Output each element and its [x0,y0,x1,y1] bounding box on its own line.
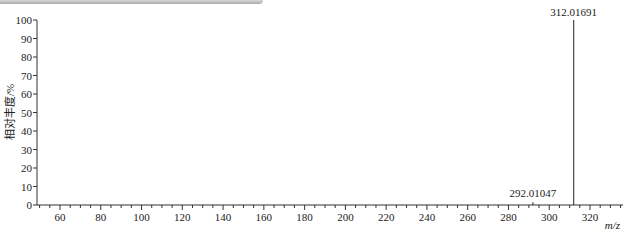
x-tick-label: 120 [174,211,191,223]
x-tick-label: 220 [378,211,395,223]
y-tick-label: 30 [21,144,33,156]
peak-label: 292.01047 [510,187,557,199]
mass-spectrum-chart: 0102030405060708090100 60801001201401601… [0,0,629,234]
x-tick-label: 140 [215,211,232,223]
x-axis-title: m/z [605,219,621,231]
x-tick-label: 160 [256,211,273,223]
x-tick-label: 260 [459,211,476,223]
x-axis: 6080100120140160180200220240260280300320 [37,205,623,223]
x-tick-label: 80 [95,211,107,223]
x-tick-label: 200 [337,211,354,223]
x-tick-label: 300 [541,211,558,223]
x-tick-label: 100 [133,211,150,223]
peak-label: 312.01691 [550,6,597,18]
y-tick-label: 90 [21,33,33,45]
y-tick-label: 80 [21,51,33,63]
x-tick-label: 280 [500,211,517,223]
x-tick-label: 180 [296,211,313,223]
y-tick-label: 10 [21,181,33,193]
y-tick-label: 40 [21,125,33,137]
y-tick-label: 70 [21,70,33,82]
y-tick-label: 50 [21,107,33,119]
peaks: 292.01047312.01691 [510,6,598,205]
y-axis: 0102030405060708090100 [16,14,38,211]
x-tick-label: 240 [419,211,436,223]
x-tick-label: 320 [582,211,599,223]
x-tick-label: 60 [55,211,67,223]
y-tick-label: 0 [27,199,33,211]
y-tick-label: 100 [16,14,33,26]
y-axis-title: 相对丰度/% [3,84,16,140]
y-tick-label: 20 [21,162,33,174]
y-tick-label: 60 [21,88,33,100]
